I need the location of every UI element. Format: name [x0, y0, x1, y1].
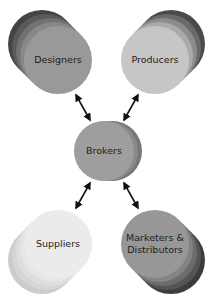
- connector-arrows: [0, 0, 211, 299]
- arrow-designers-brokers: [76, 95, 90, 120]
- arrow-marketers-brokers: [124, 183, 138, 208]
- arrow-producers-brokers: [124, 95, 138, 120]
- arrow-suppliers-brokers: [76, 183, 90, 208]
- ecosystem-diagram: Designers Producers Brokers Suppliers Ma…: [0, 0, 211, 299]
